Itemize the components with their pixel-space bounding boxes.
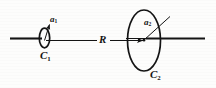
label-coil-c1: C1 bbox=[40, 50, 51, 62]
label-distance-r: R bbox=[99, 34, 106, 45]
label-radius-a2: a2 bbox=[144, 18, 151, 28]
figure-container: a1 a2 R C1 C2 bbox=[0, 0, 216, 88]
label-coil-c2: C2 bbox=[150, 69, 161, 81]
coaxial-coils-diagram bbox=[0, 0, 216, 88]
label-radius-a1: a1 bbox=[50, 15, 57, 25]
